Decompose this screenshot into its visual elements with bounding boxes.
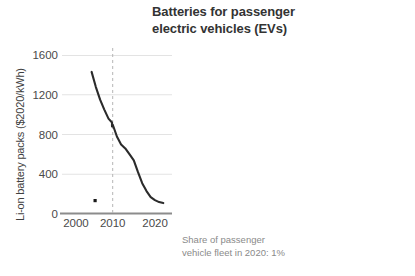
battery-price-series xyxy=(92,72,164,203)
data-point-marker xyxy=(94,199,97,202)
y-tick-left-800: 800 xyxy=(39,129,58,141)
x-tick-left-2020: 2020 xyxy=(142,217,168,229)
y-tick-left-1200: 1200 xyxy=(32,89,58,101)
panel-battery-price: Li-on battery packs ($2020/kWh) 1600 120… xyxy=(0,0,200,276)
chart-figure: Batteries for passenger electric vehicle… xyxy=(0,0,415,276)
chart-caption-line-2: vehicle fleet in 2020: 1% xyxy=(182,247,322,260)
chart-caption-line-1: Share of passenger xyxy=(182,234,322,247)
y-tick-left-0: 0 xyxy=(52,208,58,220)
x-axis-ticks-left: 2000 2010 2020 xyxy=(62,217,172,233)
gridlines-left xyxy=(62,56,172,175)
battery-price-line-chart xyxy=(62,55,172,214)
y-tick-left-1600: 1600 xyxy=(32,49,58,61)
y-tick-left-400: 400 xyxy=(39,168,58,180)
x-tick-left-2000: 2000 xyxy=(63,217,89,229)
x-tick-left-2010: 2010 xyxy=(100,217,126,229)
plot-area-battery-price xyxy=(62,55,172,214)
chart-caption: Share of passenger vehicle fleet in 2020… xyxy=(182,234,322,260)
y-axis-ticks-left: 1600 1200 800 400 0 xyxy=(22,55,58,214)
